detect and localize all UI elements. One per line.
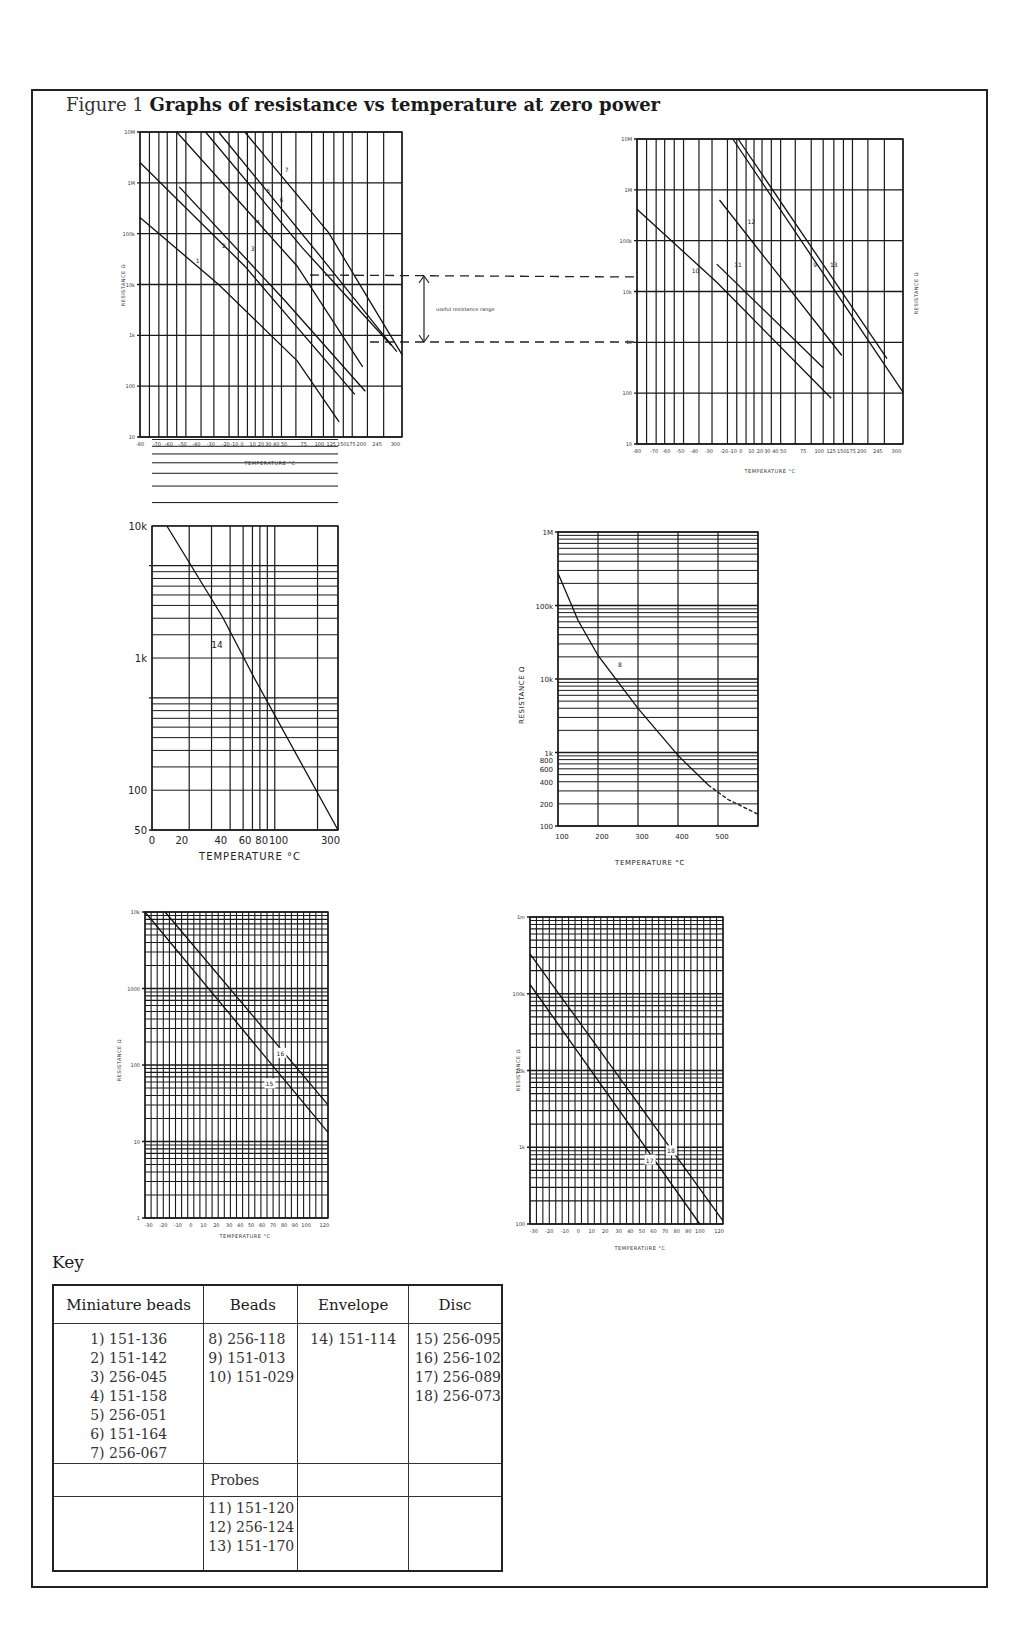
x-tick-label: -40 — [690, 448, 698, 454]
curve-label: 18 — [667, 1147, 675, 1154]
key-probes-row: 11) 151-12012) 256-12413) 151-170 — [53, 1497, 502, 1572]
x-tick-label: 40 — [237, 1222, 243, 1228]
x-tick-label: 80 — [281, 1222, 287, 1228]
curve-label: 7 — [285, 166, 289, 173]
key-item-miniature-bead: 6) 151-164 — [54, 1425, 203, 1444]
useful-resistance-range-label: useful resistance range — [436, 306, 495, 313]
key-item-disc: 15) 256-095 — [415, 1330, 501, 1349]
key-item-miniature-bead: 1) 151-136 — [54, 1330, 203, 1349]
chart-2-x-axis-label: TEMPERATURE °C — [744, 468, 796, 474]
key-item-probe: 12) 256-124 — [208, 1518, 297, 1537]
chart-6-x-axis-label: TEMPERATURE °C — [614, 1245, 666, 1251]
key-cell-miniature-beads: 1) 151-1362) 151-1423) 256-0454) 151-158… — [53, 1324, 204, 1464]
key-empty-cell — [298, 1464, 409, 1497]
x-tick-label: 75 — [800, 448, 806, 454]
chart-4-grid — [555, 532, 758, 826]
chart-3-y-ticks: 10k1k10050 — [128, 521, 147, 836]
key-item-miniature-bead: 2) 151-142 — [54, 1349, 203, 1368]
key-empty-cell — [298, 1497, 409, 1572]
chart-5-y-ticks: 10k1000100101 — [127, 909, 140, 1221]
x-tick-label: 175 — [346, 441, 356, 447]
curve-label: 13 — [830, 261, 838, 268]
key-cell-disc: 15) 256-09516) 256-10217) 256-08918) 256… — [409, 1324, 502, 1464]
chart-3: 10k1k10050 020406080100300 14 TEMPERATUR… — [110, 515, 370, 875]
x-tick-label: 175 — [846, 448, 856, 454]
x-tick-label: 120 — [714, 1228, 724, 1234]
curve-label: 16 — [277, 1050, 285, 1057]
key-item-disc: 16) 256-102 — [415, 1349, 501, 1368]
key-header-beads: Beads — [204, 1285, 298, 1324]
x-tick-label: 200 — [357, 441, 367, 447]
x-tick-label: 40 — [627, 1228, 633, 1234]
key-empty-cell — [53, 1497, 204, 1572]
x-tick-label: 30 — [764, 448, 770, 454]
curve-label: 14 — [211, 640, 223, 650]
y-tick-label: 1k — [626, 339, 632, 345]
x-tick-label: 10 — [200, 1222, 206, 1228]
y-tick-label: 10k — [128, 521, 147, 532]
chart-6-grid — [527, 917, 723, 1224]
key-empty-cell — [409, 1464, 502, 1497]
x-tick-label: 30 — [616, 1228, 622, 1234]
chart-6-x-ticks: -30-20-100102030405060708090100120 — [530, 1228, 724, 1234]
y-tick-label: 100 — [540, 823, 553, 831]
x-tick-label: 40 — [772, 448, 778, 454]
x-tick-label: 300 — [391, 441, 401, 447]
key-probes-header-row: Probes — [53, 1464, 502, 1497]
x-tick-label: -80 — [136, 441, 144, 447]
x-tick-label: -20 — [159, 1222, 167, 1228]
x-tick-label: -20 — [545, 1228, 553, 1234]
curve-label: 11 — [734, 261, 742, 268]
x-tick-label: 20 — [757, 448, 763, 454]
curve-11 — [717, 264, 823, 368]
x-tick-label: 60 — [259, 1222, 265, 1228]
chart-5-x-axis-label: TEMPERATURE °C — [219, 1233, 271, 1239]
x-tick-label: 20 — [213, 1222, 219, 1228]
probes-list: 11) 151-12012) 256-12413) 151-170 — [208, 1497, 297, 1556]
x-tick-label: -10 — [729, 448, 737, 454]
y-tick-label: 1M — [625, 187, 633, 193]
x-tick-label: -70 — [650, 448, 658, 454]
chart-2-x-ticks: -80-70-60-50-40-30-20-100102030405075100… — [633, 448, 901, 454]
chart-2-y-ticks: 10M1M100k10k1k10010 — [620, 136, 633, 447]
x-tick-label: 0 — [149, 835, 155, 846]
curve-label: 17 — [646, 1157, 654, 1164]
x-tick-label: 20 — [602, 1228, 608, 1234]
x-tick-label: 300 — [321, 835, 340, 846]
y-tick-label: 1M — [128, 180, 136, 186]
chart-3-x-axis-label: TEMPERATURE °C — [198, 851, 301, 862]
y-tick-label: 1k — [135, 653, 147, 664]
y-tick-label: 800 — [540, 757, 553, 765]
chart-3-x-ticks: 020406080100300 — [149, 835, 340, 846]
beads-list: 8) 256-1189) 151-01310) 151-029 — [208, 1324, 297, 1387]
x-tick-label: 0 — [189, 1222, 192, 1228]
x-tick-label: 80 — [255, 835, 268, 846]
x-tick-label: 0 — [577, 1228, 580, 1234]
y-tick-label: 10k — [540, 676, 554, 684]
key-header-envelope: Envelope — [298, 1285, 409, 1324]
y-tick-label: 400 — [540, 779, 553, 787]
x-tick-label: 300 — [892, 448, 902, 454]
key-cell-beads: 8) 256-1189) 151-01310) 151-029 — [204, 1324, 298, 1464]
key-table: Miniature beads Beads Envelope Disc 1) 1… — [52, 1284, 503, 1572]
x-tick-label: 100 — [814, 448, 824, 454]
x-tick-label: 300 — [635, 833, 648, 841]
x-tick-label: 100 — [301, 1222, 311, 1228]
key-item-probe: 13) 151-170 — [208, 1537, 297, 1556]
x-tick-label: 70 — [270, 1222, 276, 1228]
x-tick-label: 200 — [595, 833, 608, 841]
curve-label: 12 — [748, 218, 756, 225]
curve-label: 6 — [280, 196, 284, 203]
chart-6: 1m100k10k1k100 -30-20-100102030405060708… — [500, 905, 760, 1260]
x-tick-label: 120 — [320, 1222, 330, 1228]
x-tick-label: -30 — [705, 448, 713, 454]
key-item-bead: 9) 151-013 — [208, 1349, 297, 1368]
figure-title: Figure 1 Graphs of resistance vs tempera… — [66, 94, 660, 115]
y-tick-label: 10k — [131, 909, 140, 915]
curve-label: 8 — [618, 661, 622, 668]
x-tick-label: -50 — [676, 448, 684, 454]
envelope-list: 14) 151-114 — [298, 1324, 408, 1349]
key-item-miniature-bead: 7) 256-067 — [54, 1444, 203, 1463]
y-tick-label: 10k — [623, 289, 632, 295]
x-tick-label: 150 — [337, 441, 347, 447]
